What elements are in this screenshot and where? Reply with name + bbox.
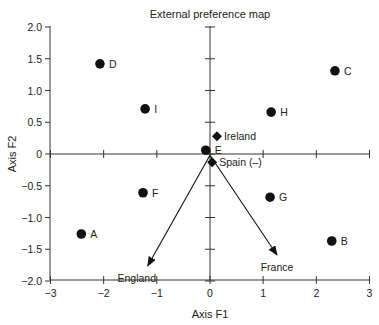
vector-label: England <box>118 272 157 284</box>
point-label: Spain (–) <box>219 156 262 168</box>
y-tick-label: 1.5 <box>27 53 42 65</box>
point-label: C <box>344 65 352 77</box>
product-point-g: G <box>265 191 287 203</box>
chart-title: External preference map <box>150 8 270 20</box>
circle-marker-icon <box>95 59 105 69</box>
circle-marker-icon <box>77 229 87 239</box>
y-tick-label: −2.0 <box>21 275 42 287</box>
vector-label: France <box>261 261 294 273</box>
diamond-marker-icon <box>212 131 222 141</box>
x-tick-label: −2 <box>98 287 110 299</box>
circle-marker-icon <box>265 192 275 202</box>
y-axis-label: Axis F2 <box>6 136 18 173</box>
x-tick-label: −3 <box>45 287 57 299</box>
product-point-f: F <box>138 187 158 199</box>
product-point-b: B <box>327 235 348 247</box>
arrow-icon <box>148 155 210 265</box>
point-label: A <box>90 228 97 240</box>
external-preference-map-chart: External preference map −3−2−101232.01.5… <box>0 0 379 325</box>
product-point-h: H <box>266 106 287 118</box>
y-tick-label: −0.5 <box>21 180 42 192</box>
segment-vector-france: France <box>210 155 293 273</box>
circle-marker-icon <box>327 236 337 246</box>
point-label: B <box>341 235 348 247</box>
circle-marker-icon <box>138 188 148 198</box>
product-point-d: D <box>95 58 117 70</box>
circle-marker-icon <box>266 107 276 117</box>
axis-ticks: −3−2−101232.01.51.00.50−0.5−1.0−1.5−2.0 <box>21 21 372 299</box>
y-tick-label: 0 <box>36 148 42 160</box>
point-label: G <box>279 191 287 203</box>
point-label: D <box>109 58 117 70</box>
y-tick-label: 1.0 <box>27 85 42 97</box>
y-tick-label: 2.0 <box>27 21 42 33</box>
arrow-icon <box>210 155 277 255</box>
data-points: ABCDEFGHIIrelandSpain (–) <box>77 58 352 247</box>
point-label: Ireland <box>224 130 256 142</box>
point-label: F <box>152 187 158 199</box>
x-tick-label: 0 <box>207 287 213 299</box>
x-tick-label: 1 <box>260 287 266 299</box>
circle-marker-icon <box>201 145 211 155</box>
y-tick-label: −1.5 <box>21 243 42 255</box>
x-axis-label: Axis F1 <box>192 308 229 320</box>
circle-marker-icon <box>140 104 150 114</box>
y-tick-label: −1.0 <box>21 212 42 224</box>
product-point-a: A <box>77 228 98 240</box>
x-tick-label: −1 <box>151 287 163 299</box>
segment-vector-england: England <box>118 155 210 283</box>
segment-vectors: EnglandFrance <box>118 155 294 283</box>
x-tick-label: 3 <box>367 287 373 299</box>
point-label: E <box>215 144 222 156</box>
product-point-i: I <box>140 103 157 115</box>
circle-marker-icon <box>330 66 340 76</box>
x-tick-label: 2 <box>313 287 319 299</box>
segment-point-spain: Spain (–) <box>207 156 262 168</box>
segment-point-ireland: Ireland <box>212 130 256 142</box>
product-point-c: C <box>330 65 352 77</box>
point-label: I <box>154 103 157 115</box>
point-label: H <box>280 106 288 118</box>
y-tick-label: 0.5 <box>27 116 42 128</box>
